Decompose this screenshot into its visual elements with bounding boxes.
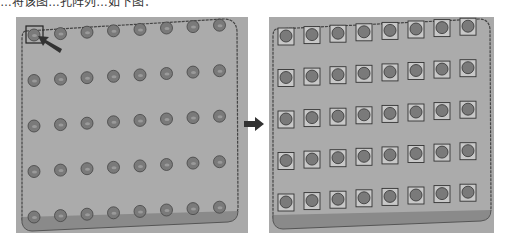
arrow-right-icon — [243, 116, 265, 132]
right-panel-after — [269, 17, 494, 233]
plate-before — [16, 17, 248, 233]
plate-after — [269, 17, 494, 233]
left-panel-before — [16, 17, 248, 233]
caption: …将该图…孔阵列…如下图： — [0, 0, 156, 9]
